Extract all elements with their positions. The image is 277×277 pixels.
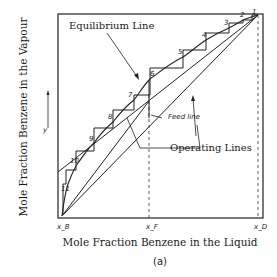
- equilibrium-line-label: Equilibrium Line: [69, 20, 154, 31]
- figure-caption: (a): [153, 256, 167, 267]
- y-axis-label: Mole Fraction Benzene in the Vapour: [17, 18, 29, 217]
- stage-label-5: 5: [178, 48, 182, 56]
- x-axis-label: Mole Fraction Benzene in the Liquid: [62, 236, 257, 248]
- stage-label-9: 9: [89, 135, 93, 143]
- xb-tick-label: x_B: [57, 223, 69, 231]
- operating-lines-label: Operating Lines: [170, 142, 252, 153]
- y-arrow-label: y: [43, 126, 47, 134]
- xd-tick-label: x_D: [254, 223, 267, 231]
- feed-line-label: Feed line: [168, 113, 200, 121]
- stage-label-6: 6: [150, 70, 154, 78]
- stage-label-3: 3: [224, 19, 228, 27]
- xf-tick-label: x_F: [146, 223, 158, 231]
- stage-label-11: 11: [61, 185, 70, 193]
- stage-label-4: 4: [202, 31, 206, 39]
- diagonal-line: [62, 15, 258, 216]
- stage-label-2: 2: [240, 11, 244, 19]
- stage-label-10: 10: [70, 157, 79, 165]
- plot-frame: [58, 14, 263, 218]
- stage-label-8: 8: [108, 113, 112, 121]
- stage-label-7: 7: [128, 91, 132, 99]
- equilibrium-pointer: [107, 33, 138, 78]
- stage-label-1: 1: [252, 8, 256, 16]
- y-arrow-head: [47, 90, 50, 95]
